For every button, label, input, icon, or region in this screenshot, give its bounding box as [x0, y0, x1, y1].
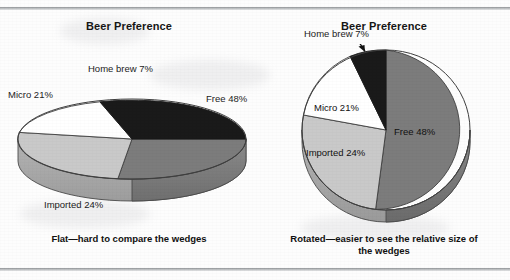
panel-flat-pie: Beer Preference	[0, 0, 258, 280]
figure-container: Beer Preference	[0, 0, 510, 280]
label-home-brew: Home brew 7%	[304, 28, 369, 39]
label-imported: Imported 24%	[306, 147, 365, 158]
label-micro: Micro 21%	[8, 89, 53, 100]
arrowhead-icon	[359, 45, 366, 52]
rotated-pie-chart	[296, 44, 476, 229]
label-micro: Micro 21%	[314, 102, 359, 113]
label-free: Free 48%	[206, 93, 247, 104]
label-imported: Imported 24%	[44, 199, 103, 210]
panel-rotated-pie: Beer Preference	[258, 0, 510, 280]
page-title: Beer Preference	[258, 20, 510, 32]
wedge-imported	[302, 115, 386, 209]
page-title: Beer Preference	[0, 20, 258, 32]
caption-rotated: Rotated—easier to see the relative size …	[258, 233, 510, 257]
caption-flat: Flat—hard to compare the wedges	[0, 233, 258, 245]
label-home-brew: Home brew 7%	[88, 63, 153, 74]
label-free: Free 48%	[394, 126, 435, 137]
